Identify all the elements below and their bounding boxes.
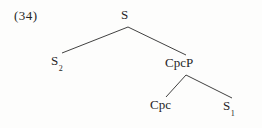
branch-root-to-right: [128, 27, 186, 55]
tree-node-root: S: [121, 8, 128, 21]
syntax-tree-figure: (34) S S2 CpcP Cpc S1: [0, 0, 262, 128]
tree-node-s1-subscript: 1: [230, 109, 235, 118]
branch-cpcp-to-cpc: [166, 75, 186, 97]
tree-node-root-base: S: [121, 7, 128, 22]
tree-node-s2-subscript: 2: [58, 64, 63, 73]
tree-node-s2: S2: [51, 54, 63, 67]
branch-root-to-left: [62, 27, 128, 53]
tree-node-cpc: Cpc: [150, 98, 171, 111]
tree-node-cpc-base: Cpc: [150, 97, 171, 112]
tree-node-cpcp: CpcP: [165, 56, 193, 69]
tree-node-s1: S1: [223, 99, 235, 112]
branch-cpcp-to-s1: [186, 75, 232, 98]
tree-node-cpcp-base: CpcP: [165, 55, 193, 70]
